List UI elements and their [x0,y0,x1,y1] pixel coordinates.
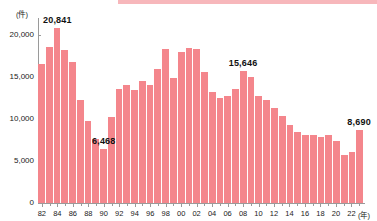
x-axis-tick-label: 88 [84,209,92,218]
bar [302,135,310,203]
bar [100,149,108,203]
x-axis-tick-mark [266,204,267,206]
bar [154,69,162,203]
x-axis-tick-mark [313,204,314,206]
x-axis-tick-mark [96,204,97,206]
x-axis-tick-mark [65,204,66,206]
bar [263,100,271,203]
x-axis-tick-mark [127,204,128,206]
x-axis-tick-label: 96 [146,209,154,218]
y-axis-tick-label: 5,000 [0,157,38,165]
x-axis-tick-label: 90 [100,209,108,218]
x-axis-tick-mark [119,204,120,207]
bar [108,117,116,203]
x-axis-tick-label: 02 [192,209,200,218]
bar [333,141,341,203]
bar [186,48,194,203]
value-annotation: 15,646 [229,58,258,68]
bar [193,49,201,203]
x-axis-tick-mark [243,204,244,207]
bar [131,90,139,203]
bar [279,116,287,203]
x-axis-tick-mark [189,204,190,206]
y-axis-tick-label: 20,000 [0,31,38,39]
x-axis-tick-mark [197,204,198,207]
x-axis-tick-label: 08 [239,209,247,218]
x-axis-tick-mark [344,204,345,206]
bar [54,28,62,203]
x-axis-tick-mark [251,204,252,206]
x-axis-tick-label: 20 [332,209,340,218]
x-axis-tick-mark [359,204,360,206]
x-axis-tick-mark [158,204,159,206]
x-axis-line [38,203,365,204]
plot-area [38,18,363,203]
bar [116,89,124,203]
x-axis-tick-mark [181,204,182,207]
x-axis-tick-mark [336,204,337,207]
x-axis-tick-label: 22 [347,209,355,218]
x-axis-tick-label: 18 [316,209,324,218]
x-axis-tick-label: 92 [115,209,123,218]
bar [69,62,77,203]
x-axis-tick-mark [173,204,174,206]
bar [201,72,209,203]
x-axis-tick-mark [50,204,51,206]
bar [123,85,131,203]
x-axis-unit-label: (年) [358,209,370,220]
x-axis-tick-mark [112,204,113,206]
bar [310,135,318,203]
bar [147,85,155,203]
x-axis-tick-mark [220,204,221,206]
x-axis-tick-mark [166,204,167,207]
x-axis-tick-label: 14 [285,209,293,218]
x-axis-tick-mark [305,204,306,207]
x-axis-tick-mark [274,204,275,207]
x-axis-tick-label: 94 [131,209,139,218]
top-decorative-strip [118,0,377,4]
x-axis-tick-mark [57,204,58,207]
bar [77,100,85,203]
x-axis-tick-label: 00 [177,209,185,218]
x-axis-tick-mark [297,204,298,206]
value-annotation: 6,468 [92,136,116,146]
bar [271,108,279,203]
bar [92,139,100,203]
bar [85,121,93,203]
x-axis-tick-mark [320,204,321,207]
value-annotation: 8,690 [347,117,371,127]
bar [318,137,326,203]
bar [178,52,186,203]
bar [240,71,248,203]
x-axis-tick-mark [212,204,213,207]
x-axis-tick-label: 12 [270,209,278,218]
y-axis-unit-label: (件) [16,8,28,19]
bar [170,78,178,203]
x-axis-tick-label: 06 [223,209,231,218]
bar [46,47,54,203]
bar [325,135,333,203]
bar [209,92,217,203]
x-axis-tick-mark [142,204,143,206]
x-axis-tick-mark [81,204,82,206]
x-axis-tick-mark [204,204,205,206]
bar [248,77,256,203]
bar [232,89,240,203]
bar [287,125,295,203]
x-axis-tick-label: 10 [254,209,262,218]
x-axis-tick-mark [73,204,74,207]
x-axis-tick-mark [228,204,229,207]
x-axis-tick-label: 84 [53,209,61,218]
bar [255,96,263,203]
x-axis-tick-mark [351,204,352,207]
x-axis-tick-mark [135,204,136,207]
chart-container: (件) 05,00010,00015,00020,000 20,8416,468… [0,0,377,221]
x-axis-tick-mark [42,204,43,207]
bar [349,152,357,203]
y-axis-tick-label: 10,000 [0,115,38,123]
value-annotation: 20,841 [43,15,72,25]
x-axis-tick-label: 16 [301,209,309,218]
x-axis-tick-mark [259,204,260,207]
bar [61,50,69,203]
bar [162,49,170,203]
